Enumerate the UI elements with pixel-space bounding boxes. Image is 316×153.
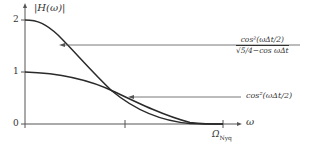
arrowhead-upper-icon	[59, 43, 65, 47]
x-axis-arrow-icon	[237, 122, 242, 126]
upper-curve	[25, 20, 223, 124]
annotation-upper-label: cos²(ωΔt/2) √5/4−cos ωΔt	[236, 35, 289, 56]
lower-curve	[25, 72, 223, 124]
y-axis-label: |H(ω)|	[34, 2, 65, 13]
plot-canvas	[0, 0, 316, 153]
nyq-subscript: Nyq	[219, 134, 231, 141]
annotation-lower-label: cos²(ωΔt/2)	[246, 91, 292, 100]
annotation-upper-numerator: cos²(ωΔt/2)	[236, 35, 289, 46]
y-tick-label-1: 1	[13, 66, 19, 76]
x-tick-label-nyq: ΩNyq	[212, 129, 232, 141]
y-tick-label-2: 2	[13, 14, 19, 24]
y-tick-label-0: 0	[13, 118, 19, 128]
y-axis-arrow-icon	[23, 3, 27, 8]
annotation-upper-denominator: √5/4−cos ωΔt	[236, 46, 289, 56]
x-axis-label: ω	[246, 116, 254, 127]
